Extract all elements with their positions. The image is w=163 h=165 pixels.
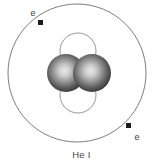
figure-caption: He I xyxy=(0,149,163,160)
electron-label-lower-right: e xyxy=(134,132,139,142)
electron-label-upper-left: e xyxy=(30,8,35,18)
nucleon-proton-right xyxy=(73,54,111,92)
atom-diagram-svg: e e xyxy=(0,0,163,165)
helium-atom-figure: e e He I xyxy=(0,0,163,165)
electron-marker-upper-left xyxy=(38,20,43,25)
electron-marker-lower-right xyxy=(126,123,131,128)
